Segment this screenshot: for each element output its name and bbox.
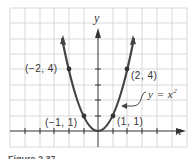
leader-arrow-icon	[121, 103, 127, 109]
equation-label: y = x2	[148, 87, 177, 100]
label-point-pos1-1: (1, 1)	[117, 116, 143, 127]
point-neg1-1	[82, 114, 87, 119]
y-axis-arrow-icon	[95, 28, 101, 38]
equation-exponent: 2	[173, 87, 177, 95]
y-axis-label: y	[94, 11, 100, 26]
curve-arrow-left-icon	[60, 35, 66, 45]
label-point-pos2-4: (2, 4)	[131, 70, 157, 81]
label-point-neg2-4: (−2, 4)	[25, 63, 58, 74]
point-neg2-4	[67, 67, 72, 72]
point-pos1-1	[111, 114, 116, 119]
point-pos2-4	[125, 67, 130, 72]
curve-arrow-right-icon	[130, 35, 136, 45]
x-axis-label: x	[176, 124, 182, 139]
equation-main: y = x	[148, 88, 173, 100]
label-point-neg1-1: (−1, 1)	[45, 117, 78, 128]
